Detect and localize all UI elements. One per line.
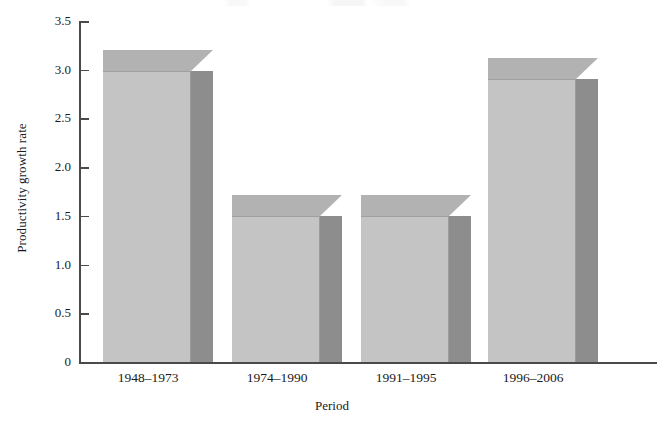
x-tick-label-1991-1995: 1991–1995 [351,370,461,386]
bar-front-face [488,79,576,362]
y-tick-label: 2.0 [55,159,71,175]
bar-front-face [103,71,191,362]
y-tick-mark [80,70,89,72]
y-tick-mark [80,313,89,315]
y-axis-line [79,21,81,362]
plot-area: 3.5 3.0 2.5 2.0 1.5 1.0 0.5 0 [79,21,657,362]
y-tick-label: 0.5 [55,305,71,321]
x-tick-label-1974-1990: 1974–1990 [222,370,332,386]
y-tick-mark [80,216,89,218]
bar-top-face [361,195,449,216]
y-tick-mark [80,118,89,120]
bar-top-face [232,195,320,216]
y-axis-title: Productivity growth rate [14,78,30,298]
bar-top-edge [488,79,576,80]
bar-1991-1995 [361,195,449,362]
y-tick-label: 3.5 [55,13,71,29]
bar-top-face [103,50,191,71]
bar-1948-1973 [103,50,191,362]
bar-top-edge [232,216,320,217]
bar-top-edge [361,216,449,217]
bar-chart-figure: Productivity growth rate 3.5 3.0 2.5 2.0… [0,0,664,422]
bar-1974-1990 [232,195,320,362]
y-tick-label: 1.0 [55,257,71,273]
x-axis-line [79,362,657,364]
y-tick-mark [80,21,89,23]
bar-top-edge [103,71,191,72]
y-tick-mark [80,167,89,169]
bar-1996-2006 [488,58,576,362]
bar-side-face [449,216,471,362]
y-tick-label: 2.5 [55,110,71,126]
bar-side-face [576,79,598,362]
x-tick-label-1948-1973: 1948–1973 [93,370,203,386]
y-tick-label: 0 [65,354,72,370]
y-tick-mark [80,265,89,267]
y-tick-label: 1.5 [55,208,71,224]
x-tick-label-1996-2006: 1996–2006 [478,370,588,386]
bar-side-face [320,216,342,362]
bar-side-face [191,71,213,362]
x-axis-title: Period [0,398,664,414]
bar-top-face [488,58,576,79]
bar-front-face [361,216,449,362]
y-tick-label: 3.0 [55,62,71,78]
cropped-caption-artifact [170,0,470,6]
bar-front-face [232,216,320,362]
